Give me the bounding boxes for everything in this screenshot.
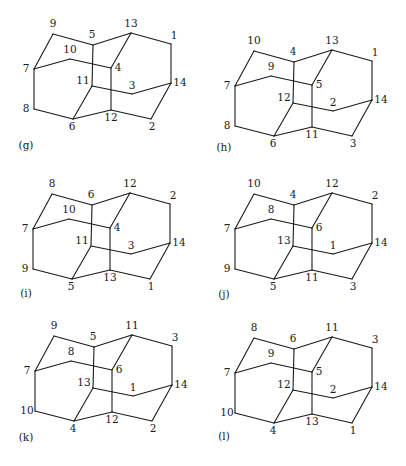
panel-j: 1041228761311495113(j): [218, 177, 388, 300]
vertex-label: 8: [49, 177, 56, 189]
vertex-label: 2: [150, 422, 157, 434]
vertex-label: 8: [268, 203, 275, 215]
panel-h: 1041319751221486113(h): [217, 34, 388, 153]
vertex-label: 14: [374, 380, 388, 392]
graph-edge: [35, 411, 74, 421]
vertex-label: 4: [290, 188, 297, 200]
panel-g: 9513110741131486122(g): [19, 17, 187, 151]
vertex-label: 12: [277, 378, 290, 390]
vertex-label: 1: [330, 239, 337, 251]
vertex-label: 7: [24, 364, 31, 376]
graph-edge: [271, 76, 312, 85]
vertex-label: 2: [330, 383, 337, 395]
graph-edge: [333, 243, 372, 254]
vertex-label: 10: [20, 404, 33, 416]
graph-edge: [332, 50, 372, 61]
vertex-label: 14: [173, 76, 187, 88]
graph-edge: [271, 219, 312, 228]
vertex-label: 9: [224, 262, 231, 274]
graph-figure: 9513110741131486122(g) 10413197512214861…: [0, 0, 406, 466]
vertex-label: 5: [316, 365, 323, 377]
vertex-label: 2: [170, 189, 177, 201]
graph-edge: [34, 109, 73, 119]
graph-edge: [93, 347, 94, 388]
graph-edge: [69, 219, 110, 228]
graph-edge: [332, 193, 372, 204]
graph-edge: [150, 243, 170, 279]
vertex-label: 13: [277, 234, 290, 246]
vertex-label: 10: [63, 43, 76, 55]
vertex-label: 1: [372, 46, 379, 58]
graph-edge: [235, 269, 274, 279]
vertex-label: 9: [50, 17, 57, 29]
graph-edge: [293, 390, 333, 398]
graph-edge: [274, 103, 293, 136]
vertex-label: 6: [290, 332, 297, 344]
vertex-label: 4: [270, 424, 277, 436]
panel-k: 9511387613114104122(k): [19, 319, 188, 443]
graph-edge: [93, 388, 133, 396]
vertex-label: 1: [130, 381, 137, 393]
graph-edge: [293, 205, 294, 246]
vertex-label: 10: [247, 34, 260, 46]
graph-edge: [293, 246, 333, 254]
graph-edge: [131, 243, 170, 254]
graph-edge: [332, 337, 372, 348]
vertex-label: 14: [174, 378, 188, 390]
vertex-label: 12: [105, 413, 118, 425]
graph-edge: [91, 205, 92, 246]
panel-caption: (l): [218, 430, 230, 442]
graph-edge: [34, 34, 53, 69]
graph-edge: [74, 388, 93, 421]
graph-edge: [235, 338, 254, 373]
vertex-label: 11: [125, 319, 138, 331]
panel-caption: (i): [20, 287, 32, 299]
panel-caption: (k): [19, 431, 34, 443]
graph-edge: [274, 246, 293, 279]
vertex-label: 14: [172, 236, 186, 248]
vertex-label: 13: [77, 376, 90, 388]
vertex-label: 5: [316, 78, 323, 90]
graph-edge: [235, 413, 274, 423]
graph-edge: [333, 387, 372, 398]
vertex-label: 13: [305, 415, 318, 427]
vertex-label: 7: [224, 366, 231, 378]
graph-edge: [132, 335, 172, 346]
graph-edge: [70, 59, 111, 68]
vertex-label: 14: [374, 93, 388, 105]
graph-edge: [293, 349, 294, 390]
graph-edge: [293, 62, 294, 103]
vertex-label: 4: [115, 61, 122, 73]
vertex-label: 2: [149, 120, 156, 132]
vertex-label: 9: [268, 347, 275, 359]
panel-caption: (j): [218, 288, 229, 300]
vertex-label: 6: [69, 120, 76, 132]
graph-edge: [235, 219, 271, 229]
vertex-label: 9: [51, 319, 58, 331]
graph-edge: [333, 100, 372, 111]
vertex-label: 5: [270, 280, 277, 292]
graph-edge: [34, 59, 70, 69]
vertex-label: 14: [374, 236, 388, 248]
graph-edge: [235, 126, 274, 136]
vertex-label: 13: [325, 34, 338, 46]
graph-edge: [235, 51, 254, 86]
vertex-label: 10: [247, 177, 260, 189]
graph-edge: [271, 363, 312, 372]
vertex-label: 12: [104, 111, 117, 123]
graph-edge: [33, 194, 52, 229]
vertex-label: 5: [90, 330, 97, 342]
graph-edge: [235, 363, 271, 373]
vertex-label: 4: [290, 45, 297, 57]
graph-edge: [92, 45, 93, 86]
vertex-label: 11: [325, 321, 338, 333]
vertex-label: 3: [350, 137, 357, 149]
vertex-label: 7: [23, 62, 30, 74]
panel-l: 8611397512214104131(l): [218, 321, 388, 442]
graph-edge: [132, 83, 171, 94]
vertex-label: 3: [128, 239, 135, 251]
vertex-label: 8: [251, 321, 258, 333]
graph-edge: [92, 86, 132, 94]
graph-edge: [131, 33, 171, 44]
graph-edge: [91, 246, 131, 254]
